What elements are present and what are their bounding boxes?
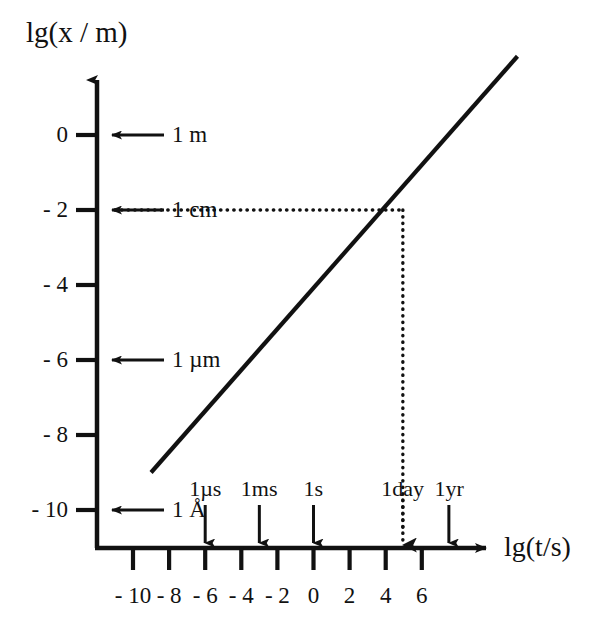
diffusion-length-chart: lg(x / m) lg(t/s) 0- 2- 4- 6- 8- 10 - 10…: [0, 0, 604, 632]
x-annotation-arrows: [205, 500, 449, 545]
x-annotation-label: 1yr: [434, 478, 463, 500]
y-tick-label: - 10: [12, 498, 68, 521]
y-tick-label: 0: [12, 123, 68, 146]
x-tick-label: 6: [399, 584, 445, 607]
y-axis-title: lg(x / m): [26, 18, 128, 47]
y-tick-label: - 2: [12, 198, 68, 221]
y-annotation-label: 1 m: [172, 123, 207, 146]
y-annotation-label: 1 µm: [172, 348, 220, 371]
x-annotation-label: 1µs: [189, 478, 221, 500]
data-series-lines: [151, 56, 517, 472]
x-annotation-label: 1day: [381, 478, 424, 500]
x-axis-title: lg(t/s): [504, 533, 571, 561]
x-axis-ticks: [133, 547, 422, 570]
x-annotation-label: 1ms: [241, 478, 278, 500]
y-tick-label: - 8: [12, 423, 68, 446]
y-tick-label: - 4: [12, 273, 68, 296]
y-annotation-label: 1 cm: [172, 198, 217, 221]
y-tick-label: - 6: [12, 348, 68, 371]
y-annotation-arrows: [112, 135, 164, 510]
x-annotation-label: 1s: [304, 478, 324, 500]
y-annotation-label: 1 Å: [172, 498, 206, 521]
